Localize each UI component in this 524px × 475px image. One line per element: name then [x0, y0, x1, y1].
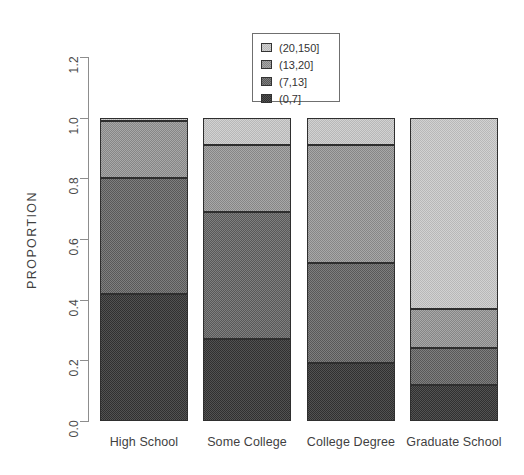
- bar-segment: [410, 348, 498, 384]
- y-tick: [80, 178, 88, 179]
- bar-segment: [203, 212, 291, 339]
- bar-segment: [307, 263, 395, 363]
- legend-swatch-icon: [261, 77, 272, 86]
- legend-label: (7,13]: [279, 76, 307, 88]
- legend-label: (0,7]: [279, 93, 301, 105]
- legend-item: (20,150]: [261, 40, 339, 55]
- y-tick-label: 0.8: [67, 177, 81, 195]
- y-tick-label: 1.2: [67, 56, 81, 74]
- legend-label: (13,20]: [279, 59, 313, 71]
- y-tick-label: 1.0: [67, 117, 81, 135]
- y-tick-label: 0.4: [67, 299, 81, 317]
- legend-item: (0,7]: [261, 91, 339, 106]
- bar-segment: [410, 118, 498, 309]
- bar-segment: [100, 294, 188, 421]
- bar-segment: [100, 118, 188, 121]
- bar-segment: [307, 363, 395, 421]
- legend-item: (13,20]: [261, 57, 339, 72]
- bar-segment: [203, 145, 291, 212]
- y-tick: [80, 239, 88, 240]
- stacked-bar-chart: 0.00.20.40.60.81.01.2 PROPORTION High Sc…: [0, 0, 524, 475]
- y-tick-label: 0.0: [67, 420, 81, 438]
- y-tick-label: 0.6: [67, 238, 81, 256]
- bar-segment: [100, 121, 188, 179]
- legend-swatch-icon: [261, 94, 272, 103]
- y-tick: [80, 360, 88, 361]
- y-tick: [80, 300, 88, 301]
- legend: (20,150](13,20](7,13](0,7]: [252, 33, 340, 102]
- bar-segment: [307, 118, 395, 145]
- y-axis-title: PROPORTION: [25, 191, 39, 289]
- x-axis-label-2: Some College: [207, 435, 287, 449]
- x-axis-label-1: High School: [110, 435, 179, 449]
- bar-segment: [410, 309, 498, 348]
- bar-segment: [410, 385, 498, 421]
- legend-swatch-icon: [261, 43, 272, 52]
- bar-segment: [203, 339, 291, 421]
- y-tick: [80, 118, 88, 119]
- legend-item: (7,13]: [261, 74, 339, 89]
- bar-segment: [100, 178, 188, 293]
- legend-swatch-icon: [261, 60, 272, 69]
- bar-segment: [307, 145, 395, 263]
- x-axis-label-3: College Degree: [307, 435, 395, 449]
- y-axis-line: [88, 57, 89, 422]
- y-axis-cap: [80, 57, 88, 58]
- legend-label: (20,150]: [279, 42, 319, 54]
- y-axis-cap: [80, 421, 88, 422]
- bar-segment: [203, 118, 291, 145]
- x-axis-label-4: Graduate School: [406, 435, 501, 449]
- y-tick-label: 0.2: [67, 359, 81, 377]
